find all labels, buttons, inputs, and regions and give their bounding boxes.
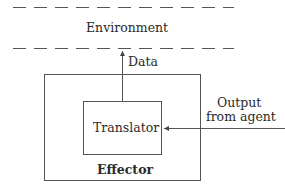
translator-label: Translator (93, 120, 159, 135)
data-label: Data (128, 54, 158, 69)
environment-label: Environment (86, 20, 168, 35)
effector-label: Effector (97, 162, 153, 177)
agent-output-label-line2: from agent (206, 109, 276, 124)
agent-output-label-line1: Output (217, 95, 261, 110)
